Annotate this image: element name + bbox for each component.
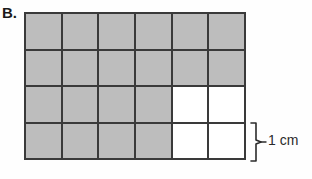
- grid-cell-empty: [173, 124, 208, 159]
- grid-cell-shaded: [209, 14, 244, 49]
- measure-label: 1 cm: [268, 131, 298, 149]
- grid-cell-shaded: [99, 51, 134, 86]
- grid-cell-empty: [173, 87, 208, 122]
- grid-cell-shaded: [136, 51, 171, 86]
- grid-cell-shaded: [63, 87, 98, 122]
- part-label: B.: [2, 4, 17, 22]
- measurement-annotation: 1 cm: [248, 121, 310, 163]
- grid-cell-shaded: [99, 87, 134, 122]
- cell-grid: [24, 12, 246, 160]
- grid-cell-shaded: [173, 14, 208, 49]
- grid-cell-shaded: [99, 14, 134, 49]
- grid-cell-empty: [209, 124, 244, 159]
- shaded-area-figure: B. 1 cm: [0, 0, 312, 179]
- grid-cell-shaded: [136, 87, 171, 122]
- grid-cell-shaded: [26, 87, 61, 122]
- grid-cell-empty: [209, 87, 244, 122]
- grid-cell-shaded: [63, 14, 98, 49]
- grid-cell-shaded: [26, 51, 61, 86]
- grid-cell-shaded: [99, 124, 134, 159]
- grid-cell-shaded: [136, 14, 171, 49]
- grid-cell-shaded: [209, 51, 244, 86]
- grid-cell-shaded: [173, 51, 208, 86]
- grid-cell-shaded: [136, 124, 171, 159]
- grid-cell-shaded: [63, 51, 98, 86]
- grid-cell-shaded: [26, 124, 61, 159]
- grid-cell-shaded: [26, 14, 61, 49]
- grid-cell-shaded: [63, 124, 98, 159]
